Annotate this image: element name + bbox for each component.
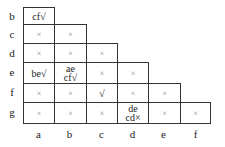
row-label-g: g xyxy=(4,107,20,118)
cell-d-b: × xyxy=(54,43,87,63)
cell-d-c: × xyxy=(86,43,118,63)
row-label-c: c xyxy=(4,29,20,40)
col-label-c: c xyxy=(86,129,117,140)
col-label-b: b xyxy=(54,129,85,140)
cell-b-a: cf√ xyxy=(23,7,55,25)
cell-e-a: be√ xyxy=(23,62,55,84)
cell-e-d: × xyxy=(117,62,149,84)
row-label-d: d xyxy=(4,48,20,59)
col-label-a: a xyxy=(23,129,54,140)
cell-c-a: × xyxy=(23,24,55,44)
cell-e-c: × xyxy=(86,62,118,84)
cell-e-b: ae cf√ xyxy=(54,62,87,84)
cell-f-d: × xyxy=(117,83,149,103)
cell-d-a: × xyxy=(23,43,55,63)
cell-g-e: × xyxy=(148,102,181,124)
col-label-d: d xyxy=(117,129,148,140)
row-label-b: b xyxy=(4,11,20,22)
col-label-e: e xyxy=(148,129,179,140)
cell-g-d-line2: cd× xyxy=(125,113,140,122)
cell-g-a: × xyxy=(23,102,55,124)
cell-g-d: de cd× xyxy=(117,102,149,124)
cell-g-f: × xyxy=(180,102,211,124)
cell-f-b: × xyxy=(54,83,87,103)
cell-c-b: × xyxy=(54,24,87,44)
row-label-f: f xyxy=(4,87,20,98)
cell-g-b: × xyxy=(54,102,87,124)
cell-e-b-line2: cf√ xyxy=(64,73,77,82)
col-label-f: f xyxy=(180,129,211,140)
cell-g-c: × xyxy=(86,102,118,124)
row-label-e: e xyxy=(4,67,20,78)
cell-f-a: × xyxy=(23,83,55,103)
cell-f-e: × xyxy=(148,83,181,103)
cell-f-c: √ xyxy=(86,83,118,103)
